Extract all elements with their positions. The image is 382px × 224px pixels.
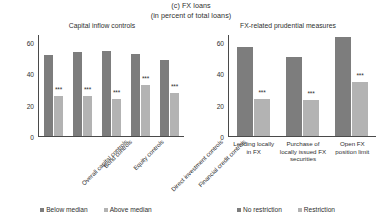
- x-axis-label: Purchase of locally issued FX securities: [278, 140, 327, 180]
- plot-area-right: 60 40 20 0 *********: [228, 35, 376, 137]
- bar-series-2: ***: [303, 100, 319, 136]
- bar-series-2: ***: [54, 96, 63, 136]
- legend-label-below-median: Below median: [46, 206, 87, 213]
- significance-stars: ***: [259, 90, 266, 97]
- x-axis-label: Equity controls: [132, 138, 165, 171]
- legend-label-no-restriction: No restriction: [243, 206, 282, 213]
- x-axis-label: Lending locally in FX: [229, 140, 278, 180]
- bar-series-2: ***: [112, 99, 121, 136]
- bar-series-2: ***: [170, 93, 179, 137]
- bar-groups-left: ***************: [39, 35, 184, 136]
- legend-right: No restriction Restriction: [190, 206, 382, 213]
- bar-series-1: [102, 51, 111, 136]
- legend-swatch-icon-no-restriction: [237, 208, 241, 212]
- significance-stars: ***: [55, 87, 62, 94]
- bar-group: ***: [39, 35, 68, 136]
- significance-stars: ***: [113, 90, 120, 97]
- bar-series-1: [131, 54, 140, 136]
- y-tick-40: 40: [27, 71, 38, 78]
- bar-series-1: [335, 37, 351, 136]
- legend-item-below-median: Below median: [40, 206, 87, 213]
- legend-item-no-restriction: No restriction: [237, 206, 282, 213]
- x-axis-label: Open FX position limit: [328, 140, 377, 180]
- legend-swatch-icon-below-median: [40, 208, 44, 212]
- y-tick-right-20: 20: [217, 102, 228, 109]
- legend-swatch-icon-above-median: [104, 208, 108, 212]
- chart-left-title: Capital inflow controls: [0, 22, 192, 29]
- chart-right-title: FX-related prudential measures: [190, 22, 382, 29]
- significance-stars: ***: [84, 87, 91, 94]
- bar-series-1: [160, 60, 169, 136]
- bar-group: ***: [278, 35, 327, 136]
- y-tick-0: 0: [30, 134, 38, 141]
- bar-series-1: [286, 57, 302, 136]
- bar-series-1: [237, 47, 253, 136]
- significance-stars: ***: [357, 73, 364, 80]
- figure-title-line1: (c) FX loans: [171, 1, 210, 10]
- bar-group: ***: [327, 35, 376, 136]
- chart-fx-related-prudential-measures: FX-related prudential measures 60 40 20 …: [190, 22, 382, 224]
- legend-item-above-median: Above median: [104, 206, 152, 213]
- figure-title: (c) FX loans (in percent of total loans): [0, 1, 382, 20]
- y-tick-right-60: 60: [217, 39, 228, 46]
- x-axis-right: [228, 136, 376, 137]
- bar-series-2: ***: [83, 96, 92, 136]
- plot-area-left: 60 40 20 0 ***************: [38, 35, 184, 137]
- bar-group: ***: [126, 35, 155, 136]
- chart-capital-inflow-controls: Capital inflow controls 60 40 20 0 *****…: [0, 22, 192, 224]
- bar-group: ***: [97, 35, 126, 136]
- legend-left: Below median Above median: [0, 206, 192, 213]
- bar-group: ***: [229, 35, 278, 136]
- significance-stars: ***: [171, 84, 178, 91]
- bar-group: ***: [155, 35, 184, 136]
- figure-title-line2: (in percent of total loans): [0, 11, 382, 21]
- y-tick-right-40: 40: [217, 71, 228, 78]
- bar-series-2: ***: [141, 85, 150, 136]
- bar-series-1: [73, 52, 82, 136]
- x-axis-labels-right: Lending locally in FXPurchase of locally…: [229, 140, 377, 180]
- bar-group: ***: [68, 35, 97, 136]
- y-tick-20: 20: [27, 102, 38, 109]
- legend-label-restriction: Restriction: [304, 206, 335, 213]
- y-tick-60: 60: [27, 39, 38, 46]
- bar-series-2: ***: [352, 82, 368, 136]
- legend-label-above-median: Above median: [110, 206, 152, 213]
- bar-series-1: [44, 55, 53, 136]
- significance-stars: ***: [308, 91, 315, 98]
- significance-stars: ***: [142, 76, 149, 83]
- legend-swatch-icon-restriction: [298, 208, 302, 212]
- figure-panel-c: (c) FX loans (in percent of total loans)…: [0, 0, 382, 224]
- x-axis-labels-left: Overall capital controlsBond controlsEqu…: [39, 138, 185, 200]
- legend-item-restriction: Restriction: [298, 206, 335, 213]
- bar-series-2: ***: [254, 99, 270, 136]
- y-tick-right-0: 0: [220, 134, 228, 141]
- bar-groups-right: *********: [229, 35, 376, 136]
- x-axis-left: [38, 136, 184, 137]
